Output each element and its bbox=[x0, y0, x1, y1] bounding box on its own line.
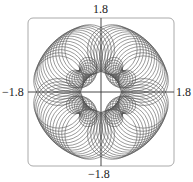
y-min-label: −1.8 bbox=[88, 167, 110, 182]
plot-area bbox=[0, 0, 193, 182]
x-max-label: 1.8 bbox=[176, 85, 191, 100]
y-max-label: 1.8 bbox=[93, 2, 108, 17]
x-min-label: −1.8 bbox=[2, 85, 24, 100]
